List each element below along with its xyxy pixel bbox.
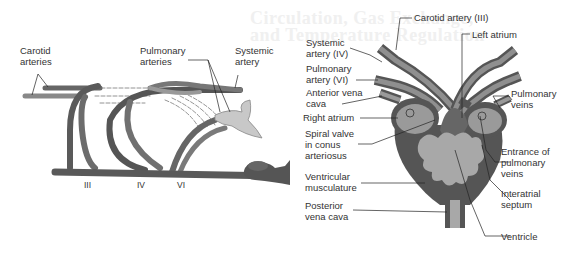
- label-systemic-artery: Systemic artery: [235, 45, 274, 67]
- label-arch-iv: IV: [137, 180, 145, 191]
- label-posterior-vena-cava: Posterior vena cava: [305, 200, 348, 222]
- label-pulmonary-veins: Pulmonary veins: [511, 88, 556, 110]
- label-carotid-artery-iii: Carotid artery (III): [414, 12, 488, 23]
- label-interatrial-septum: Interatrial septum: [501, 188, 541, 210]
- label-carotid-arteries: Carotid arteries: [20, 45, 52, 67]
- label-arch-vi: VI: [177, 180, 185, 191]
- label-left-atrium: Left atrium: [472, 29, 517, 40]
- label-arch-iii: III: [84, 180, 91, 191]
- label-systemic-artery-iv: Systemic artery (IV): [306, 37, 348, 59]
- label-ventricle: Ventricle: [501, 231, 537, 242]
- label-pulmonary-arteries: Pulmonary arteries: [140, 45, 185, 67]
- label-spiral-valve: Spiral valve in conus arteriosus: [305, 128, 354, 161]
- aortic-arches-diagram: [0, 0, 290, 255]
- label-ventricular-musculature: Ventricular musculature: [305, 171, 357, 193]
- label-pulmonary-artery-vi: Pulmonary artery (VI): [306, 63, 351, 85]
- label-anterior-vena-cava: Anterior vena cava: [306, 87, 363, 109]
- label-right-atrium: Right atrium: [303, 112, 354, 123]
- label-entrance-pulmonary-veins: Entrance of pulmonary veins: [501, 146, 550, 179]
